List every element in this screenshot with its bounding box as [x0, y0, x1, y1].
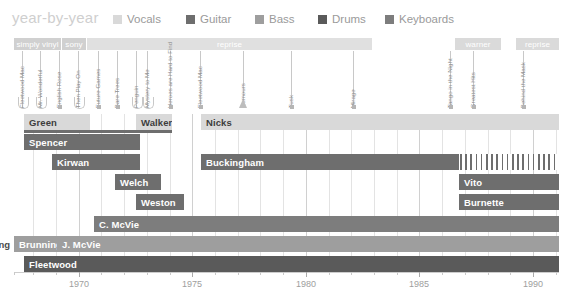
legend-swatch-icon [255, 15, 264, 24]
legend-item-keyboards[interactable]: Keyboards [385, 12, 454, 26]
timeline-bar-burnette[interactable]: Burnette [459, 194, 559, 210]
album-marker[interactable]: Future Games [98, 51, 99, 108]
legend-swatch-icon [385, 15, 394, 24]
album-title: Heroes are Hard to Find [167, 42, 173, 108]
album-marker[interactable]: Fleetwood Mac [200, 51, 201, 108]
album-dot-icon [522, 105, 526, 109]
album-title: Behind the Mask [520, 62, 526, 108]
x-axis: 19701975198019851990 [0, 272, 565, 301]
album-marker[interactable]: Penguin [136, 51, 137, 108]
album-dot-icon [472, 105, 476, 109]
timeline-bar-green[interactable]: Green [24, 114, 90, 130]
axis-tick [124, 272, 125, 275]
axis-tick [329, 272, 330, 275]
legend-label: Drums [332, 12, 366, 26]
chart-header: year-by-year VocalsGuitarBassDrumsKeyboa… [0, 8, 565, 30]
timeline-bar-spencer[interactable]: Spencer [24, 134, 140, 150]
timeline-bar-welch[interactable]: Welch [115, 174, 161, 190]
album-marker[interactable]: Behind the Mask [523, 51, 524, 108]
album-marker[interactable]: Fleetwood Mac [22, 51, 23, 108]
album-title: Fleetwood Mac [197, 66, 203, 108]
timeline-bar-buckingham[interactable]: Buckingham [201, 154, 459, 170]
album-dot-icon [58, 105, 62, 109]
record-label-reprise[interactable]: reprise [87, 38, 372, 50]
timeline-bar-vito[interactable]: Vito [459, 174, 559, 190]
axis-tick-label: 1990 [523, 279, 543, 289]
album-title: English Rose [56, 72, 62, 108]
axis-tick [306, 272, 307, 277]
record-label-simply-vinyl[interactable]: simply vinyl [14, 38, 61, 50]
album-marker[interactable]: Greatest Hits [473, 51, 474, 108]
album-title: Greatest Hits [470, 72, 476, 108]
timeline-bar-secondary-role[interactable] [136, 130, 172, 133]
record-label-warner[interactable]: warner [455, 38, 501, 50]
legend-item-guitar[interactable]: Guitar [186, 12, 231, 26]
album-cap-icon [18, 97, 29, 109]
axis-tick [170, 272, 171, 275]
axis-tick [419, 272, 420, 277]
legend-label: Bass [269, 12, 295, 26]
axis-tick [283, 272, 284, 275]
page-title: year-by-year [12, 9, 99, 26]
timeline-bar[interactable] [460, 154, 559, 170]
axis-tick [533, 272, 534, 277]
axis-tick [510, 272, 511, 275]
album-dot-icon [199, 105, 203, 109]
year-by-year-timeline-chart: year-by-year VocalsGuitarBassDrumsKeyboa… [0, 0, 565, 301]
record-label-sony[interactable]: sony [62, 38, 86, 50]
timeline-bar-walker[interactable]: Walker [136, 114, 172, 130]
album-cap-icon [143, 97, 154, 109]
album-marker[interactable]: Rumours [243, 51, 244, 108]
album-marker[interactable]: English Rose [59, 51, 60, 108]
axis-tick [56, 272, 57, 275]
axis-tick [397, 272, 398, 275]
legend-item-vocals[interactable]: Vocals [113, 12, 161, 26]
album-title: Tango in the Night [447, 58, 453, 108]
timeline-bar-fleetwood[interactable]: Fleetwood [24, 256, 559, 272]
timeline-bar-brunning[interactable]: Brunning [14, 236, 57, 252]
axis-tick [556, 272, 557, 275]
legend-item-drums[interactable]: Drums [318, 12, 366, 26]
album-marker[interactable]: Heroes are Hard to Find [170, 51, 171, 108]
axis-tick [192, 272, 193, 277]
plot-area: GreenWalkerNicksSpencerKirwanBuckinghamW… [0, 114, 565, 272]
album-cap-icon [74, 97, 85, 109]
legend-item-bass[interactable]: Bass [255, 12, 295, 26]
timeline-bar-kirwan[interactable]: Kirwan [52, 154, 140, 170]
album-marker[interactable]: Then Play On [78, 51, 79, 108]
album-cap-icon [132, 97, 143, 109]
legend-swatch-icon [318, 15, 327, 24]
album-marker[interactable]: Mirage [353, 51, 354, 108]
bar-outside-label: Brunning [0, 236, 14, 252]
axis-tick [260, 272, 261, 275]
album-cap-icon [36, 97, 47, 109]
legend-swatch-icon [113, 15, 122, 24]
album-marker[interactable]: Mr. Wonderful [40, 51, 41, 108]
album-marker[interactable]: Tango in the Night [450, 51, 451, 108]
record-label-band: simply vinylsonyreprisewarnerreprise [0, 38, 565, 50]
axis-tick [147, 272, 148, 275]
album-dot-icon [116, 105, 120, 109]
album-triangle-icon [239, 99, 247, 108]
timeline-bar-j-mcvie[interactable]: J. McVie [57, 236, 559, 252]
album-title: Future Games [95, 68, 101, 108]
record-label-reprise[interactable]: reprise [516, 38, 559, 50]
timeline-bar-c-mcvie[interactable]: C. McVie [94, 216, 559, 232]
axis-tick [101, 272, 102, 275]
axis-line [14, 272, 559, 273]
album-marker[interactable]: Tusk [291, 51, 292, 108]
axis-tick [33, 272, 34, 275]
album-title: Bare Trees [114, 78, 120, 108]
axis-tick [488, 272, 489, 275]
axis-tick-label: 1970 [69, 279, 89, 289]
axis-tick [351, 272, 352, 275]
axis-tick [374, 272, 375, 275]
album-marker[interactable]: Bare Trees [117, 51, 118, 108]
timeline-bar-weston[interactable]: Weston [136, 194, 184, 210]
album-dot-icon [169, 105, 173, 109]
album-dot-icon [97, 105, 101, 109]
timeline-bar-nicks[interactable]: Nicks [201, 114, 559, 130]
axis-tick [215, 272, 216, 275]
album-marker-group: Fleetwood MacMr. WonderfulEnglish RoseTh… [0, 51, 565, 114]
album-marker[interactable]: Mystery to Me [147, 51, 148, 108]
